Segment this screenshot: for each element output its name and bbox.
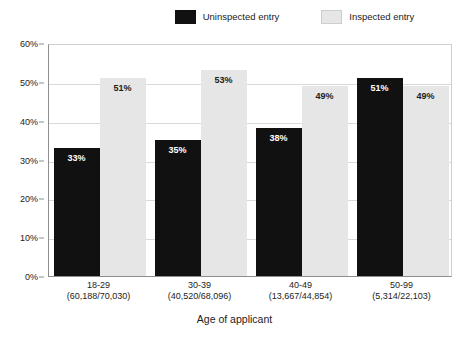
legend-label-uninspected-entry: Uninspected entry — [203, 12, 280, 22]
bar-group: 33%51% — [49, 45, 150, 276]
bar: 51% — [357, 78, 403, 276]
x-axis-tick-label: 18-29(60,188/70,030) — [48, 280, 149, 302]
bar: 35% — [155, 140, 201, 276]
x-axis-category-counts: (5,314/22,103) — [351, 291, 452, 302]
x-axis-tick-label: 50-99(5,314/22,103) — [351, 280, 452, 302]
bar-value-label: 33% — [54, 154, 100, 163]
bar-group: 35%53% — [150, 45, 251, 276]
y-axis-tick-label: 0% — [25, 273, 38, 282]
y-axis-tick-mark — [39, 160, 44, 161]
y-axis-tick-mark — [39, 199, 44, 200]
legend-item-uninspected-entry: Uninspected entry — [175, 10, 280, 24]
y-axis: 0%10%20%30%40%50%60% — [0, 44, 44, 277]
bar-value-label: 49% — [403, 92, 449, 101]
legend-label-inspected-entry: Inspected entry — [349, 12, 414, 22]
bar-value-label: 51% — [100, 84, 146, 93]
bar: 51% — [100, 78, 146, 276]
bar-group: 51%49% — [352, 45, 453, 276]
y-axis-tick-label: 30% — [20, 156, 38, 165]
x-axis-category-counts: (60,188/70,030) — [48, 291, 149, 302]
legend-item-inspected-entry: Inspected entry — [321, 10, 414, 24]
x-axis-category: 50-99 — [351, 280, 452, 291]
y-axis-tick-mark — [39, 44, 44, 45]
bar-value-label: 51% — [357, 84, 403, 93]
x-axis-tick-label: 30-39(40,520/68,096) — [149, 280, 250, 302]
y-axis-tick-mark — [39, 277, 44, 278]
bar: 49% — [302, 86, 348, 276]
bar-value-label: 38% — [256, 134, 302, 143]
bar: 33% — [54, 148, 100, 276]
bar: 49% — [403, 86, 449, 276]
y-axis-tick-mark — [39, 238, 44, 239]
bar: 38% — [256, 128, 302, 276]
bar-value-label: 53% — [201, 76, 247, 85]
y-axis-tick-mark — [39, 121, 44, 122]
y-axis-tick-label: 10% — [20, 234, 38, 243]
bar-groups: 33%51%35%53%38%49%51%49% — [49, 45, 451, 276]
x-axis-title: Age of applicant — [0, 313, 469, 325]
x-axis-category-counts: (13,667/44,854) — [250, 291, 351, 302]
bar: 53% — [201, 70, 247, 276]
x-axis-category: 18-29 — [48, 280, 149, 291]
legend-swatch-inspected-entry — [321, 10, 342, 24]
legend-swatch-uninspected-entry — [175, 10, 196, 24]
x-axis: 18-29(60,188/70,030)30-39(40,520/68,096)… — [48, 280, 452, 310]
x-axis-category: 40-49 — [250, 280, 351, 291]
bar-group: 38%49% — [251, 45, 352, 276]
bar-chart: Uninspected entry Inspected entry 0%10%2… — [0, 0, 469, 339]
x-axis-tick-label: 40-49(13,667/44,854) — [250, 280, 351, 302]
y-axis-tick-label: 60% — [20, 40, 38, 49]
y-axis-tick-label: 20% — [20, 195, 38, 204]
bar-value-label: 35% — [155, 146, 201, 155]
bar-value-label: 49% — [302, 92, 348, 101]
y-axis-tick-label: 50% — [20, 78, 38, 87]
chart-legend: Uninspected entry Inspected entry — [0, 10, 469, 24]
x-axis-category-counts: (40,520/68,096) — [149, 291, 250, 302]
x-axis-category: 30-39 — [149, 280, 250, 291]
y-axis-tick-label: 40% — [20, 117, 38, 126]
y-axis-tick-mark — [39, 82, 44, 83]
plot-area: 33%51%35%53%38%49%51%49% — [48, 44, 452, 277]
